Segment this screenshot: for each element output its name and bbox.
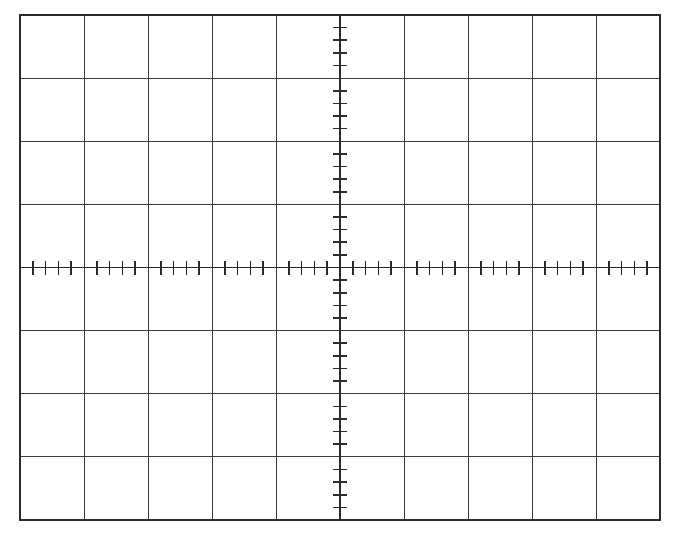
graticule-canvas [0, 0, 687, 542]
graticule-container [0, 0, 687, 542]
